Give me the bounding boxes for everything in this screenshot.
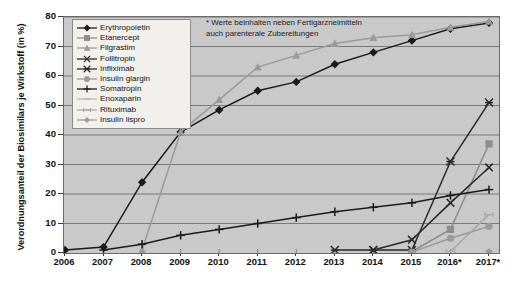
x-tick-label: 2009 [158, 256, 202, 267]
x-tick-label: 2010 [196, 256, 240, 267]
x-tick-label: 2006 [42, 256, 86, 267]
legend-label: Enoxaparin [98, 94, 141, 104]
legend-item-etanercept[interactable]: Etanercept [76, 33, 184, 43]
x-tick-label: 2008 [119, 256, 163, 267]
legend-marker-square-icon [76, 33, 98, 43]
y-tick-label: 30 [22, 158, 56, 169]
legend-marker-x-icon [76, 54, 98, 64]
series-insulin-lispro [485, 248, 492, 253]
legend-label: Infliximab [98, 64, 134, 74]
y-tick-label: 70 [22, 40, 56, 51]
legend-label: Somatropin [98, 84, 141, 94]
legend-label: Follitropin [98, 54, 135, 64]
legend-item-erythropoietin[interactable]: Erythropoietin [76, 23, 184, 33]
footnote-annotation: * Werte beinhalten neben Fertigarzneimit… [206, 18, 362, 39]
y-tick-label: 20 [22, 187, 56, 198]
legend-item-filgrastim[interactable]: Filgrastim [76, 43, 184, 53]
x-tick-label: 2015 [389, 256, 433, 267]
y-tick-label: 80 [22, 10, 56, 21]
legend-item-insulin-glargin[interactable]: Insulin glargin [76, 74, 184, 84]
legend-item-rituximab[interactable]: Rituximab [76, 105, 184, 115]
legend-marker-triangle-icon [76, 43, 98, 53]
y-tick-label: 60 [22, 69, 56, 80]
legend-label: Insulin lispro [98, 115, 145, 125]
series-filgrastim [138, 17, 493, 253]
legend-label: Rituximab [98, 105, 136, 115]
legend-marker-hbar-icon [76, 94, 98, 104]
x-tick-label: 2017* [466, 256, 510, 267]
legend-marker-plus-icon [76, 84, 98, 94]
legend-item-somatropin[interactable]: Somatropin [76, 84, 184, 94]
legend-marker-diamond-icon [76, 23, 98, 33]
legend-marker-hbar2-icon [76, 105, 98, 115]
legend: ErythropoietinEtanerceptFilgrastimFollit… [72, 19, 191, 129]
x-tick-label: 2011 [235, 256, 279, 267]
legend-item-follitropin[interactable]: Follitropin [76, 54, 184, 64]
legend-marker-asterisk-icon [76, 64, 98, 74]
legend-item-infliximab[interactable]: Infliximab [76, 64, 184, 74]
legend-label: Filgrastim [98, 43, 135, 53]
x-tick-label: 2014 [350, 256, 394, 267]
legend-marker-smalldiamond-icon [76, 115, 98, 125]
series-infliximab [331, 99, 493, 253]
x-tick-label: 2013 [312, 256, 356, 267]
x-tick-label: 2012 [273, 256, 317, 267]
x-tick-label: 2016* [427, 256, 471, 267]
legend-item-enoxaparin[interactable]: Enoxaparin [76, 94, 184, 104]
y-tick-label: 50 [22, 99, 56, 110]
x-tick-label: 2007 [81, 256, 125, 267]
legend-label: Etanercept [98, 33, 139, 43]
legend-label: Erythropoietin [98, 23, 150, 33]
chart-root: Verordnungsanteil der Biosimilars je Wir… [0, 0, 511, 284]
y-tick-label: 10 [22, 217, 56, 228]
y-tick-label: 40 [22, 128, 56, 139]
legend-marker-circle-icon [76, 74, 98, 84]
legend-label: Insulin glargin [98, 74, 150, 84]
legend-item-insulin-lispro[interactable]: Insulin lispro [76, 115, 184, 125]
